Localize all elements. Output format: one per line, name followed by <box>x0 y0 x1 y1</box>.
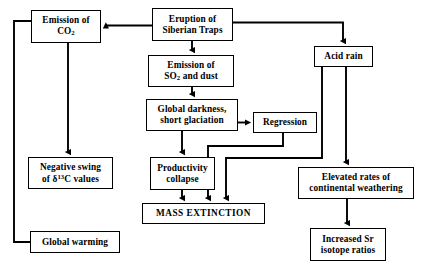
node-regression[interactable]: Regression <box>253 112 317 133</box>
node-mass-extinction-label: MASS EXTINCTION <box>153 208 254 219</box>
edge-regression-to-mass-extinction <box>208 133 283 198</box>
node-productivity-collapse[interactable]: Productivity collapse <box>150 157 215 190</box>
node-increased-sr[interactable]: Increased Sr isotope ratios <box>310 228 386 261</box>
node-global-warming[interactable]: Global warming <box>30 231 120 253</box>
edge-eruption-to-acid-rain <box>233 23 343 42</box>
node-acid-rain[interactable]: Acid rain <box>314 46 373 67</box>
edge-global-warming-loop <box>14 21 31 242</box>
node-emission-co2-label: Emission ofCO2 <box>39 15 92 37</box>
node-acid-rain-label: Acid rain <box>321 51 365 62</box>
node-elevated-rates-label: Elevated rates of continental weathering <box>306 172 405 194</box>
node-regression-label: Regression <box>260 117 310 128</box>
node-productivity-collapse-label: Productivity collapse <box>154 163 211 185</box>
node-global-darkness[interactable]: Global darkness, short glaciation <box>146 99 238 131</box>
node-eruption-siberian-traps[interactable]: Eruption of Siberian Traps <box>152 8 233 41</box>
node-negative-swing[interactable]: Negative swingof δ13C values <box>28 157 113 189</box>
node-mass-extinction[interactable]: MASS EXTINCTION <box>142 203 265 224</box>
node-increased-sr-label: Increased Sr isotope ratios <box>318 234 378 256</box>
flowchart-diagram: Emission ofCO2 Eruption of Siberian Trap… <box>0 0 423 269</box>
node-negative-swing-label: Negative swingof δ13C values <box>37 162 104 185</box>
node-emission-so2[interactable]: Emission ofSO2 and dust <box>148 55 234 87</box>
node-global-warming-label: Global warming <box>39 237 111 248</box>
node-global-darkness-label: Global darkness, short glaciation <box>155 104 230 126</box>
node-elevated-rates[interactable]: Elevated rates of continental weathering <box>298 167 414 199</box>
node-emission-so2-label: Emission ofSO2 and dust <box>161 60 221 82</box>
node-eruption-siberian-traps-label: Eruption of Siberian Traps <box>159 14 225 36</box>
node-emission-co2[interactable]: Emission ofCO2 <box>31 10 101 43</box>
